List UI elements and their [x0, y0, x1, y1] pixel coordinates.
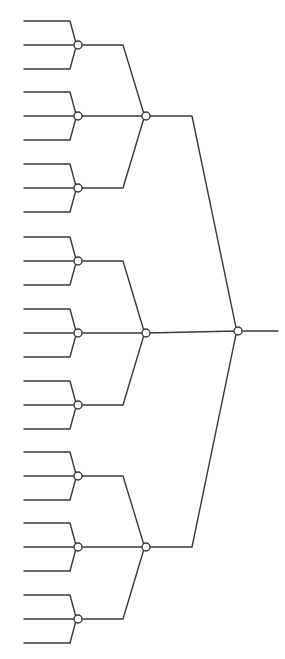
leaf-edge [24, 309, 76, 330]
leaf-edge [24, 92, 76, 113]
level1-edge [78, 476, 144, 544]
leaf-edge [24, 264, 76, 285]
level1-edge [78, 550, 144, 619]
level2-node [142, 112, 150, 120]
level1-node [74, 472, 82, 480]
level2-node [142, 543, 150, 551]
leaf-edge [24, 164, 76, 185]
leaf-edge [24, 595, 76, 616]
leaf-edge [24, 119, 76, 140]
level2-node [142, 329, 150, 337]
level1-edge [78, 45, 144, 113]
root-node [234, 327, 242, 335]
leaf-edge [24, 191, 76, 212]
level1-node [74, 257, 82, 265]
level1-node [74, 112, 82, 120]
leaf-edge [24, 48, 76, 69]
leaf-edge [24, 550, 76, 571]
leaf-edge [24, 479, 76, 500]
level1-edge [78, 119, 144, 188]
level1-node [74, 41, 82, 49]
level1-node [74, 329, 82, 337]
tree-diagram-svg [0, 0, 285, 659]
leaf-edge [24, 622, 76, 643]
level1-edge [78, 261, 144, 330]
level1-node [74, 184, 82, 192]
leaf-edge [24, 452, 76, 473]
leaf-edge [24, 523, 76, 544]
level1-node [74, 615, 82, 623]
leaf-edge [24, 237, 76, 258]
leaf-edge [24, 336, 76, 357]
level1-node [74, 401, 82, 409]
leaf-edge [24, 408, 76, 429]
level1-edge [78, 336, 144, 405]
level2-edge [146, 334, 236, 547]
tree-diagram [0, 0, 285, 659]
level2-edge [146, 331, 238, 333]
leaf-edge [24, 381, 76, 402]
level2-edge [146, 116, 236, 328]
leaf-edge [24, 21, 76, 42]
level1-node [74, 543, 82, 551]
